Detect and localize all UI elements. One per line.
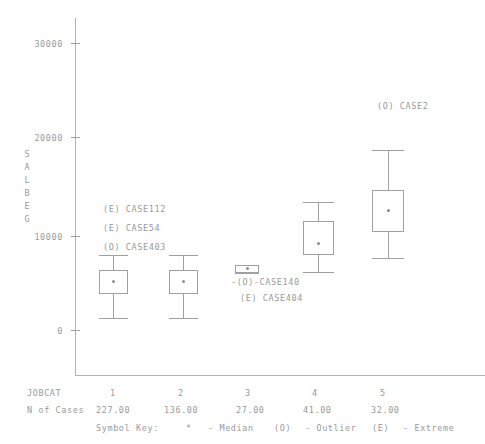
annotation-case2: (O) CASE2 <box>377 102 428 111</box>
y-axis-line <box>75 18 76 375</box>
y-axis-title-letter: S <box>22 148 32 161</box>
y-axis-title-letter: L <box>22 174 32 187</box>
whisker-cap-lower <box>303 272 334 273</box>
y-axis-label-0: 0 <box>18 326 63 336</box>
median-key-text: - Median <box>208 424 254 433</box>
whisker-lower <box>388 231 389 258</box>
annotation-case112: (E) CASE112 <box>103 205 166 214</box>
y-axis-title-letter: B <box>22 187 32 200</box>
footer-ncases-value-1: 227.00 <box>96 406 130 415</box>
whisker-upper <box>113 255 114 271</box>
y-axis-tick-30000 <box>71 43 80 44</box>
annotation-case54: (E) CASE54 <box>103 224 160 233</box>
median-marker <box>246 267 249 270</box>
y-axis-label-10000: 10000 <box>18 232 63 242</box>
y-axis-tick-20000 <box>71 137 80 138</box>
box-iqr <box>303 221 334 255</box>
y-axis-tick-0 <box>71 330 80 331</box>
median-marker <box>112 280 115 283</box>
footer-jobcat-value-1: 1 <box>110 389 116 398</box>
y-axis-title-letter: A <box>22 161 32 174</box>
whisker-lower <box>183 293 184 318</box>
y-axis-label-30000: 30000 <box>18 39 63 49</box>
whisker-upper <box>388 150 389 191</box>
footer-jobcat-value-4: 4 <box>312 389 318 398</box>
y-axis-tick-10000 <box>71 236 80 237</box>
whisker-cap-lower <box>169 318 198 319</box>
whisker-upper <box>183 255 184 271</box>
boxplot-chart-page: 30000 20000 10000 0 S A L B E G <box>0 0 485 444</box>
outlier-glyph-icon: (O) <box>274 424 291 433</box>
footer-jobcat-value-3: 3 <box>245 389 251 398</box>
footer-ncases-value-5: 32.00 <box>371 406 400 415</box>
whisker-upper <box>318 202 319 222</box>
whisker-lower <box>318 254 319 273</box>
whisker-cap-lower <box>372 258 404 259</box>
median-marker <box>387 209 390 212</box>
whisker-lower <box>113 293 114 318</box>
footer-ncases-value-2: 136.00 <box>164 406 198 415</box>
y-axis-title-letter: E <box>22 200 32 213</box>
y-axis-title: S A L B E G <box>22 148 32 226</box>
symbol-key-label: Symbol Key: <box>96 424 159 433</box>
footer-jobcat-label: JOBCAT <box>27 389 61 398</box>
median-marker <box>182 280 185 283</box>
whisker-cap-lower <box>235 273 259 274</box>
x-axis-line <box>75 375 485 376</box>
footer-jobcat-value-5: 5 <box>380 389 386 398</box>
annotation-case404: (E) CASE404 <box>240 294 303 303</box>
footer-jobcat-value-2: 2 <box>178 389 184 398</box>
extreme-glyph-icon: (E) <box>372 424 389 433</box>
outlier-key-text: - Outlier <box>305 424 356 433</box>
annotation-case140: -(O)-CASE140 <box>231 278 300 287</box>
whisker-cap-lower <box>99 318 128 319</box>
footer-ncases-label: N of Cases <box>27 406 84 415</box>
median-glyph-icon: * <box>186 424 192 433</box>
footer-ncases-value-4: 41.00 <box>303 406 332 415</box>
y-axis-label-20000: 20000 <box>18 133 63 143</box>
footer-ncases-value-3: 27.00 <box>236 406 265 415</box>
y-axis-title-letter: G <box>22 213 32 226</box>
annotation-case403: (O) CASE403 <box>103 243 166 252</box>
extreme-key-text: - Extreme <box>403 424 454 433</box>
median-marker <box>317 242 320 245</box>
